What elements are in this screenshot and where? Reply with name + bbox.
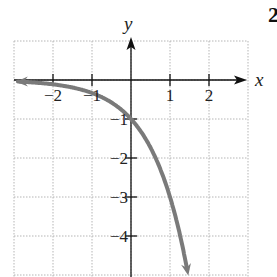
- x-tick-label: −1: [83, 86, 101, 105]
- y-tick-label: −2: [110, 149, 128, 168]
- x-tick-label: 2: [205, 86, 214, 105]
- graph: −2−112−1−2−3−4 x y 2: [0, 0, 277, 277]
- axes: [14, 37, 247, 277]
- y-tick-label: −4: [110, 227, 129, 246]
- problem-number: 2: [268, 2, 277, 27]
- curve-path: [18, 82, 187, 270]
- x-tick-label: 1: [166, 86, 175, 105]
- x-axis-label: x: [254, 69, 264, 90]
- y-tick-label: −3: [110, 188, 128, 207]
- y-tick-label: −1: [110, 110, 128, 129]
- y-axis-label: y: [122, 13, 133, 34]
- tick-labels: −2−112−1−2−3−4: [44, 86, 213, 246]
- x-tick-label: −2: [44, 86, 62, 105]
- function-curve: [16, 77, 191, 276]
